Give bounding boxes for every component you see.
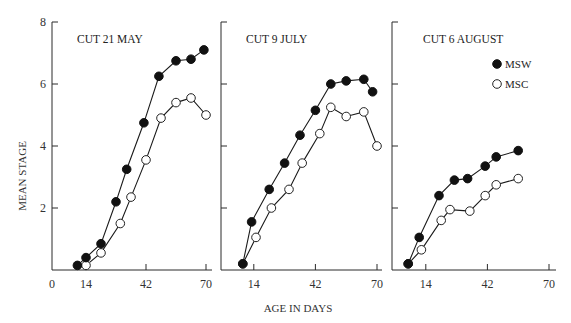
open-circle-marker <box>327 103 336 112</box>
x-axis-title: AGE IN DAYS <box>264 302 333 314</box>
legend-label: MSC <box>505 78 528 90</box>
open-circle-marker <box>514 174 523 183</box>
x-tick-label: 70 <box>371 277 383 291</box>
x-tick-label: 70 <box>200 277 212 291</box>
open-circle-marker <box>466 207 475 216</box>
legend-open-circle-icon <box>493 80 502 89</box>
open-circle-marker <box>267 204 276 213</box>
filled-circle-marker <box>140 119 149 128</box>
legend-filled-circle-icon <box>493 60 502 69</box>
filled-circle-marker <box>311 106 320 115</box>
y-tick-label: 2 <box>40 201 46 215</box>
series-line <box>77 50 203 266</box>
panel-2: 144270CUT 9 JULY <box>221 22 383 291</box>
panel-title: CUT 9 JULY <box>246 33 308 45</box>
filled-circle-marker <box>82 253 91 262</box>
filled-circle-marker <box>463 174 472 183</box>
filled-circle-marker <box>435 191 444 200</box>
filled-circle-marker <box>481 162 490 171</box>
open-circle-marker <box>157 114 166 123</box>
filled-circle-marker <box>97 239 106 248</box>
legend: MSWMSC <box>493 58 532 90</box>
filled-circle-marker <box>450 176 459 185</box>
axes-frame <box>221 22 382 270</box>
x-tick-label: 14 <box>80 277 92 291</box>
y-axis-title: MEAN STAGE <box>16 141 28 211</box>
filled-circle-marker <box>200 46 209 55</box>
filled-circle-marker <box>360 75 369 84</box>
open-circle-marker <box>360 108 369 117</box>
legend-label: MSW <box>505 58 532 70</box>
y-tick-label: 8 <box>40 15 46 29</box>
open-circle-marker <box>373 142 382 151</box>
filled-circle-marker <box>296 131 305 140</box>
x-tick-label: 14 <box>248 277 260 291</box>
open-circle-marker <box>172 98 181 107</box>
filled-circle-marker <box>280 159 289 168</box>
open-circle-marker <box>417 246 426 255</box>
filled-circle-marker <box>122 165 131 174</box>
open-circle-marker <box>285 185 294 194</box>
filled-circle-marker <box>172 57 181 66</box>
x-tick-label: 42 <box>140 277 152 291</box>
filled-circle-marker <box>239 260 248 269</box>
filled-circle-marker <box>73 261 82 270</box>
series-line <box>243 79 373 263</box>
panel-title: CUT 21 MAY <box>77 33 144 45</box>
figure: 24680144270CUT 21 MAY144270CUT 9 JULY144… <box>0 0 571 323</box>
filled-circle-marker <box>112 198 121 207</box>
x-origin-label: 0 <box>49 277 55 291</box>
open-circle-marker <box>142 156 151 165</box>
open-circle-marker <box>252 233 261 242</box>
open-circle-marker <box>316 129 325 138</box>
y-tick-label: 6 <box>40 77 46 91</box>
filled-circle-marker <box>404 260 413 269</box>
open-circle-marker <box>187 94 196 103</box>
x-tick-label: 14 <box>420 277 432 291</box>
open-circle-marker <box>446 205 455 214</box>
series-msc <box>239 103 382 268</box>
panel-3: 144270CUT 6 AUGUSTMSWMSC <box>392 22 556 291</box>
filled-circle-marker <box>265 185 274 194</box>
open-circle-marker <box>437 216 446 225</box>
open-circle-marker <box>202 111 211 120</box>
open-circle-marker <box>127 193 136 202</box>
filled-circle-marker <box>247 218 256 227</box>
filled-circle-marker <box>492 153 501 162</box>
panel-1: 24680144270CUT 21 MAY <box>40 15 212 291</box>
x-tick-label: 42 <box>481 277 493 291</box>
series-msw <box>73 46 208 270</box>
open-circle-marker <box>97 249 106 258</box>
open-circle-marker <box>116 219 125 228</box>
x-tick-label: 70 <box>543 277 555 291</box>
x-tick-label: 42 <box>309 277 321 291</box>
filled-circle-marker <box>415 233 424 242</box>
filled-circle-marker <box>368 88 377 97</box>
series-msc <box>404 174 523 268</box>
open-circle-marker <box>492 181 501 190</box>
axes-frame <box>392 22 556 270</box>
panel-title: CUT 6 AUGUST <box>423 33 503 45</box>
filled-circle-marker <box>187 55 196 64</box>
series-line <box>243 107 377 263</box>
mean-stage-chart: 24680144270CUT 21 MAY144270CUT 9 JULY144… <box>0 0 571 323</box>
y-tick-label: 4 <box>40 139 46 153</box>
filled-circle-marker <box>155 72 164 81</box>
panels: 24680144270CUT 21 MAY144270CUT 9 JULY144… <box>40 15 556 291</box>
open-circle-marker <box>298 159 307 168</box>
open-circle-marker <box>342 112 351 121</box>
filled-circle-marker <box>342 77 351 86</box>
filled-circle-marker <box>327 80 336 89</box>
filled-circle-marker <box>514 146 523 155</box>
open-circle-marker <box>481 191 490 200</box>
